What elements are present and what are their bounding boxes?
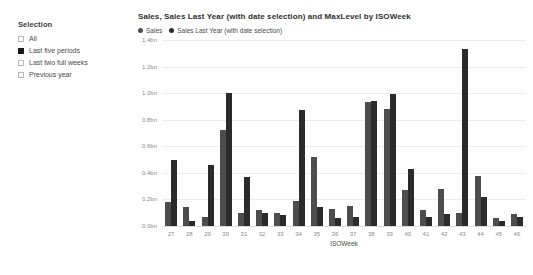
y-axis: 1.4bn1.2bn1.0bn0.8bn0.6bn0.4bn0.2bn0.0bn [136, 40, 160, 226]
x-axis-tick-label: 41 [417, 228, 435, 240]
bar-group[interactable] [217, 40, 235, 226]
x-axis-tick-label: 34 [289, 228, 307, 240]
bar-group[interactable] [471, 40, 489, 226]
slicer-item-list: AllLast five periodsLast two full weeksP… [18, 33, 124, 80]
x-axis-tick-label: 40 [399, 228, 417, 240]
bar-group[interactable] [162, 40, 180, 226]
x-axis-tick-label: 36 [326, 228, 344, 240]
checkbox-icon[interactable] [18, 60, 24, 66]
y-axis-tick-label: 0.6bn [142, 143, 157, 149]
bar-group[interactable] [508, 40, 526, 226]
bar[interactable] [353, 217, 359, 226]
legend-marker-icon [138, 28, 143, 33]
legend-marker-icon [169, 28, 174, 33]
x-axis-tick-label: 39 [380, 228, 398, 240]
bar-group[interactable] [308, 40, 326, 226]
plot-area: 1.4bn1.2bn1.0bn0.8bn0.6bn0.4bn0.2bn0.0bn… [136, 40, 526, 246]
bar[interactable] [462, 49, 468, 226]
bar[interactable] [189, 221, 195, 226]
y-axis-tick-label: 1.2bn [142, 64, 157, 70]
y-axis-tick-label: 1.4bn [142, 37, 157, 43]
x-axis-tick-label: 32 [253, 228, 271, 240]
bar-group[interactable] [490, 40, 508, 226]
bar[interactable] [517, 217, 523, 226]
y-axis-tick-label: 1.0bn [142, 90, 157, 96]
bar[interactable] [280, 215, 286, 226]
legend-label: Sales [146, 27, 162, 34]
bar-groups [162, 40, 526, 226]
bar-group[interactable] [344, 40, 362, 226]
bar-group[interactable] [235, 40, 253, 226]
bar[interactable] [426, 217, 432, 226]
x-axis-tick-label: 43 [453, 228, 471, 240]
legend-label: Sales Last Year (with date selection) [177, 27, 282, 34]
bar[interactable] [317, 207, 323, 226]
bar[interactable] [208, 165, 214, 226]
x-axis-tick-label: 38 [362, 228, 380, 240]
sales-bar-chart: Sales, Sales Last Year (with date select… [136, 12, 526, 267]
y-axis-tick-label: 0.4bn [142, 170, 157, 176]
bar[interactable] [299, 110, 305, 226]
x-axis-tick-label: 35 [308, 228, 326, 240]
slicer-item[interactable]: Last five periods [18, 45, 124, 56]
y-axis-tick-label: 0.2bn [142, 196, 157, 202]
bar[interactable] [335, 218, 341, 226]
x-axis-tick-label: 30 [217, 228, 235, 240]
legend-item[interactable]: Sales Last Year (with date selection) [169, 27, 282, 34]
x-axis: 2728293031323334353637383940414243444546 [162, 228, 526, 240]
x-axis-title: ISOWeek [162, 240, 526, 247]
bar-group[interactable] [380, 40, 398, 226]
legend-item[interactable]: Sales [138, 27, 162, 34]
bar[interactable] [408, 169, 414, 226]
selection-slicer: Selection AllLast five periodsLast two f… [18, 20, 124, 81]
x-axis-tick-label: 45 [490, 228, 508, 240]
chart-legend: SalesSales Last Year (with date selectio… [138, 27, 526, 34]
bar-group[interactable] [399, 40, 417, 226]
slicer-item-label: All [29, 33, 37, 44]
checkbox-icon[interactable] [18, 72, 24, 78]
slicer-item-label: Last two full weeks [29, 57, 88, 68]
checkbox-icon[interactable] [18, 36, 24, 42]
y-axis-tick-label: 0.0bn [142, 223, 157, 229]
bar[interactable] [481, 197, 487, 226]
x-axis-tick-label: 28 [180, 228, 198, 240]
slicer-item[interactable]: Previous year [18, 69, 124, 80]
x-axis-tick-label: 42 [435, 228, 453, 240]
bar-group[interactable] [417, 40, 435, 226]
bar[interactable] [262, 213, 268, 226]
bar[interactable] [171, 160, 177, 226]
bar-group[interactable] [271, 40, 289, 226]
x-axis-tick-label: 31 [235, 228, 253, 240]
bar-group[interactable] [362, 40, 380, 226]
bar-group[interactable] [326, 40, 344, 226]
slicer-item[interactable]: Last two full weeks [18, 57, 124, 68]
chart-title: Sales, Sales Last Year (with date select… [138, 12, 526, 21]
slicer-item[interactable]: All [18, 33, 124, 44]
bar-group[interactable] [198, 40, 216, 226]
bar-group[interactable] [180, 40, 198, 226]
x-axis-tick-label: 27 [162, 228, 180, 240]
x-axis-tick-label: 33 [271, 228, 289, 240]
x-axis-tick-label: 46 [508, 228, 526, 240]
slicer-item-label: Last five periods [29, 45, 80, 56]
bar-group[interactable] [289, 40, 307, 226]
bar[interactable] [444, 214, 450, 226]
slicer-item-label: Previous year [29, 69, 72, 80]
slicer-title: Selection [18, 20, 124, 29]
bar[interactable] [226, 93, 232, 226]
x-axis-tick-label: 44 [471, 228, 489, 240]
dashboard-page: Selection AllLast five periodsLast two f… [0, 0, 533, 275]
x-axis-tick-label: 37 [344, 228, 362, 240]
checkbox-icon[interactable] [18, 48, 24, 54]
bar-group[interactable] [453, 40, 471, 226]
bar[interactable] [244, 177, 250, 226]
y-axis-tick-label: 0.8bn [142, 117, 157, 123]
bar-group[interactable] [253, 40, 271, 226]
bar[interactable] [371, 101, 377, 226]
axis-baseline [162, 226, 526, 227]
x-axis-tick-label: 29 [198, 228, 216, 240]
bar[interactable] [390, 94, 396, 226]
bar-group[interactable] [435, 40, 453, 226]
bar[interactable] [499, 221, 505, 226]
